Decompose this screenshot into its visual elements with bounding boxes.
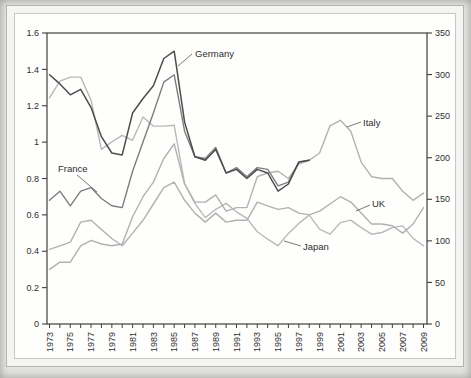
x-tick-label: 1989 — [211, 332, 221, 352]
x-tick-label: 1981 — [128, 332, 138, 352]
right-tick-label: 0 — [435, 319, 440, 329]
annotation-uk: UK — [356, 198, 386, 211]
left-tick-label: 0.8 — [26, 174, 39, 184]
annotation-leader-line — [356, 205, 370, 211]
series-line-germany — [50, 51, 310, 191]
right-tick-label: 350 — [435, 28, 450, 38]
x-tick-label: 1983 — [149, 332, 159, 352]
left-tick-label: 0.2 — [26, 283, 39, 293]
series-label-germany: Germany — [195, 48, 234, 59]
x-tick-label: 1973 — [45, 332, 55, 352]
plot-area-border — [47, 33, 427, 324]
annotation-germany: Germany — [178, 48, 234, 66]
right-tick-label: 200 — [435, 153, 450, 163]
left-tick-label: 1.6 — [26, 28, 39, 38]
series-label-italy: Italy — [363, 117, 381, 128]
left-tick-label: 1.2 — [26, 101, 39, 111]
x-axis: 1973197519771979198119831985198719891991… — [45, 324, 429, 352]
x-tick-label: 1987 — [190, 332, 200, 352]
left-tick-label: 1.4 — [26, 65, 39, 75]
series-label-france: France — [58, 163, 88, 174]
series-label-japan: Japan — [303, 241, 329, 252]
x-tick-label: 1979 — [107, 332, 117, 352]
right-tick-label: 150 — [435, 194, 450, 204]
x-tick-label: 2003 — [356, 332, 366, 352]
right-tick-label: 100 — [435, 236, 450, 246]
x-tick-label: 1997 — [294, 332, 304, 352]
x-tick-label: 1985 — [169, 332, 179, 352]
x-tick-label: 2005 — [377, 332, 387, 352]
left-axis: 00.20.40.60.811.21.41.6 — [26, 28, 47, 329]
right-tick-label: 50 — [435, 278, 445, 288]
x-tick-label: 1975 — [65, 332, 75, 352]
x-tick-label: 1991 — [232, 332, 242, 352]
annotation-leader-line — [178, 54, 192, 66]
left-tick-label: 0.6 — [26, 210, 39, 220]
x-tick-label: 2001 — [336, 332, 346, 352]
annotation-italy: Italy — [347, 117, 381, 128]
left-tick-label: 0 — [34, 319, 39, 329]
x-tick-label: 1977 — [86, 332, 96, 352]
x-tick-label: 1999 — [315, 332, 325, 352]
x-tick-label: 2007 — [398, 332, 408, 352]
x-tick-label: 1993 — [252, 332, 262, 352]
x-tick-label: 1995 — [273, 332, 283, 352]
annotation-leader-line — [284, 241, 301, 246]
series-label-uk: UK — [372, 198, 386, 209]
series-line-uk — [50, 182, 424, 249]
annotation-leader-line — [347, 122, 361, 127]
right-axis: 050100150200250300350 — [427, 28, 450, 329]
left-tick-label: 1 — [34, 137, 39, 147]
exchange-rate-line-chart: 00.20.40.60.811.21.41.605010015020025030… — [0, 0, 471, 378]
x-tick-label: 2009 — [419, 332, 429, 352]
right-tick-label: 300 — [435, 70, 450, 80]
annotation-japan: Japan — [284, 241, 329, 252]
left-tick-label: 0.4 — [26, 246, 39, 256]
page-background: 00.20.40.60.811.21.41.605010015020025030… — [0, 0, 471, 378]
right-tick-label: 250 — [435, 111, 450, 121]
